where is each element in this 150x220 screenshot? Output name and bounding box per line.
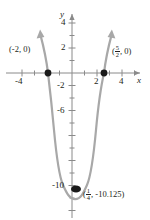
value-y: -10.125 xyxy=(95,189,121,199)
label-x-intercept-left: (-2, 0) xyxy=(9,45,30,54)
graph-figure: y x -4 2 4 4 2 -2 -6 -10 (-2, 0) (52, 0)… xyxy=(0,0,150,220)
fraction-denominator: 4 xyxy=(86,194,91,202)
y-tick-label-4: 4 xyxy=(61,18,66,27)
y-axis-arrow xyxy=(69,14,74,20)
fraction-one-quarter: 14 xyxy=(86,188,91,203)
paren-close: ) xyxy=(122,189,125,199)
y-tick-label-minus10: -10 xyxy=(52,181,64,190)
x-tick-label-4: 4 xyxy=(119,77,124,86)
left-branch-arrow xyxy=(37,30,45,39)
right-branch-arrow xyxy=(108,30,116,39)
y-tick-label-minus2: -2 xyxy=(57,81,65,90)
paren-close: ) xyxy=(27,44,30,54)
fraction-denominator: 2 xyxy=(115,51,120,59)
parabola-plot xyxy=(0,0,150,220)
paren-close: ) xyxy=(129,46,132,56)
value-x: -2 xyxy=(12,44,19,54)
fraction-numerator: 5 xyxy=(115,45,120,52)
y-tick-label-minus6: -6 xyxy=(57,106,65,115)
point-x-intercept-left xyxy=(45,70,52,77)
label-vertex: (14, -10.125) xyxy=(83,188,124,203)
x-tick-label-minus4: -4 xyxy=(15,77,23,86)
fraction-numerator: 1 xyxy=(86,188,91,195)
x-tick-label-2: 2 xyxy=(94,77,99,86)
fraction-five-halves: 52 xyxy=(115,45,120,60)
y-tick-label-2: 2 xyxy=(61,43,66,52)
parabola-curve xyxy=(37,30,116,200)
point-x-intercept-right xyxy=(101,70,108,77)
label-x-intercept-right: (52, 0) xyxy=(112,45,131,60)
x-axis-label: x xyxy=(137,76,141,85)
point-vertex xyxy=(71,185,81,192)
